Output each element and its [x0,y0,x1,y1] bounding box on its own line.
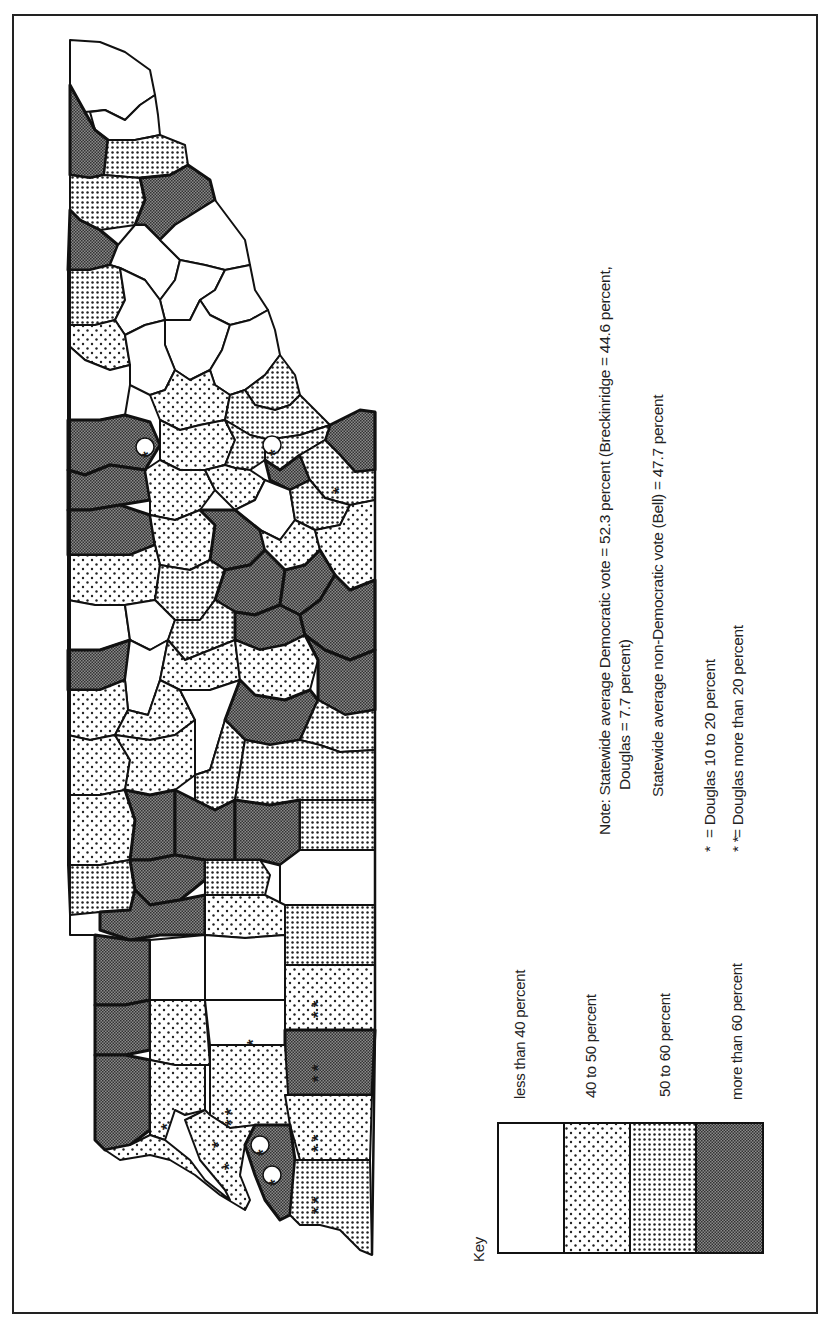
county [68,545,160,605]
douglas-star-marker: * [244,1040,264,1046]
county [150,1000,210,1065]
douglas-star-marker: * [220,1164,240,1170]
legend-label-40-50: 40 to 50 percent [582,994,599,1098]
legend-label-50-60: 50 to 60 percent [656,993,673,1097]
legend-label-less-than-40: less than 40 percent [511,970,528,1099]
legend-label-more-than-60: more than 60 percent [728,963,745,1100]
douglas-double-star-marker: * * [222,1109,242,1126]
note-line-3: Statewide average non-Democratic vote (B… [648,395,668,797]
county [205,895,285,938]
legend-swatch-less-than-40 [498,1123,564,1253]
county [160,420,235,470]
county [285,1030,375,1095]
county [150,935,205,1000]
legend-swatch-50-60 [630,1123,696,1253]
douglas-star-marker: * [139,452,159,458]
county [290,1160,372,1255]
symbol-label-douglas-over-20: = Douglas more than 20 percent [728,625,748,838]
legend-swatches [497,1122,767,1256]
legend-swatch-more-than-60 [696,1123,763,1253]
douglas-double-star-marker: * * [309,1001,329,1018]
county [205,935,285,1000]
legend-swatch-40-50 [564,1123,630,1253]
county [205,860,270,895]
legend-title: Key [470,1237,487,1262]
douglas-star-marker: * [254,1150,274,1156]
county [95,935,150,1005]
douglas-star-marker: * [209,1142,229,1148]
symbol-label-douglas-10-20: = Douglas 10 to 20 percent [700,659,720,838]
county [68,790,135,865]
county [235,800,300,865]
douglas-star-marker: * [266,1180,286,1186]
county [95,1000,150,1055]
douglas-star-marker: * [266,450,286,456]
symbol-glyph-double-star: * * [728,837,748,852]
county [95,1055,150,1150]
county [68,505,155,555]
note-line-1: Note: Statewide average Democratic vote … [595,267,615,835]
douglas-double-star-marker: * * [309,1065,329,1082]
county [280,850,375,905]
douglas-star-marker: * [158,1124,178,1130]
county [300,800,375,850]
note-line-2: Douglas = 7.7 percent) [615,639,635,790]
county [285,905,375,965]
douglas-double-star-marker: * * [309,1135,329,1152]
county [285,965,375,1030]
douglas-double-star-marker: * * [309,1197,329,1214]
county [205,1000,285,1045]
douglas-star-marker: * [330,488,350,494]
symbol-glyph-single-star: * [700,846,720,852]
county [68,860,135,915]
